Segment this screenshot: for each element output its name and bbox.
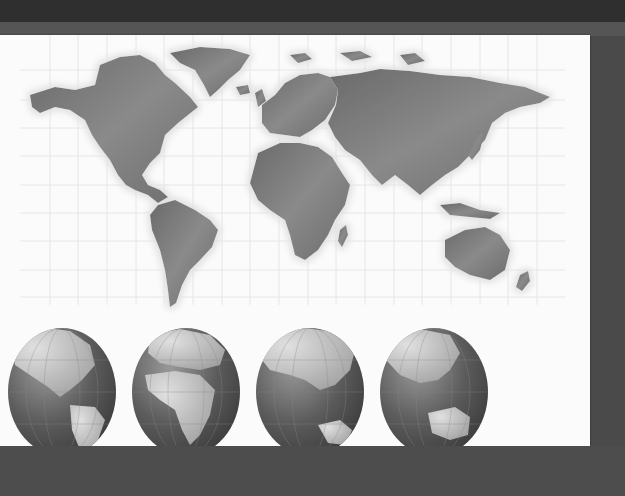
north-america-shape [30, 55, 198, 203]
globe-asia-indian-ocean [256, 327, 364, 446]
bottom-background-band [0, 446, 625, 496]
globe-americas [8, 327, 116, 446]
south-america-shape [150, 200, 218, 307]
asia-shape [328, 69, 550, 195]
world-map-illustration [0, 35, 590, 446]
mid-background-band [0, 22, 625, 36]
australia-shape [445, 227, 510, 280]
arctic-islands-shape [400, 53, 425, 65]
arctic-islands-shape [340, 51, 372, 61]
indonesia-shape [440, 203, 500, 219]
madagascar-shape [338, 225, 348, 247]
globe-east-asia-australia [380, 328, 488, 446]
map-card [0, 35, 590, 446]
iceland-shape [236, 85, 250, 95]
arctic-islands-shape [290, 53, 312, 63]
top-background-band [0, 0, 625, 22]
africa-shape [250, 143, 350, 260]
globe-europe-africa [132, 328, 240, 446]
europe-shape [262, 73, 338, 137]
new-zealand-shape [516, 271, 530, 291]
